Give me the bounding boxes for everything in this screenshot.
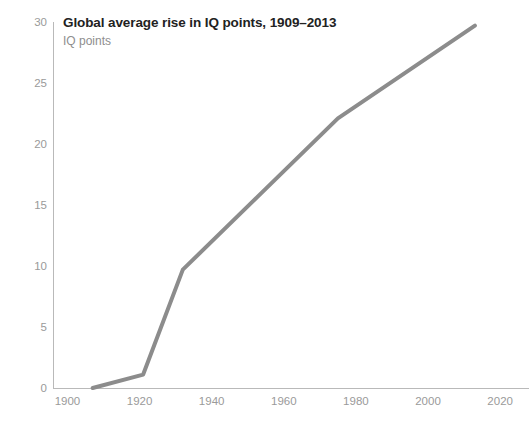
x-tick-label: 2000 xyxy=(415,395,441,407)
x-tick-label: 2020 xyxy=(487,395,513,407)
y-tick-label: 25 xyxy=(34,77,47,89)
x-tick-label: 1940 xyxy=(199,395,225,407)
x-tick-label: 1980 xyxy=(343,395,369,407)
x-tick-label: 1920 xyxy=(127,395,153,407)
data-line xyxy=(93,26,475,388)
y-tick-label: 10 xyxy=(34,260,47,272)
y-tick-label-group: 051015202530 xyxy=(34,16,47,394)
chart-plot: 051015202530 190019201940196019802000202… xyxy=(0,0,529,429)
y-tick-label: 5 xyxy=(41,321,47,333)
chart-container: Global average rise in IQ points, 1909–2… xyxy=(0,0,529,429)
y-tick-label: 0 xyxy=(41,382,47,394)
x-tick-label: 1900 xyxy=(55,395,81,407)
y-tick-label: 30 xyxy=(34,16,47,28)
y-tick-label: 20 xyxy=(34,138,47,150)
x-axis: 1900192019401960198020002020 xyxy=(53,388,529,407)
y-axis: 051015202530 xyxy=(34,16,53,394)
y-tick-label: 15 xyxy=(34,199,47,211)
series-group xyxy=(93,26,475,388)
x-tick-label-group: 1900192019401960198020002020 xyxy=(55,395,513,407)
x-tick-label: 1960 xyxy=(271,395,297,407)
